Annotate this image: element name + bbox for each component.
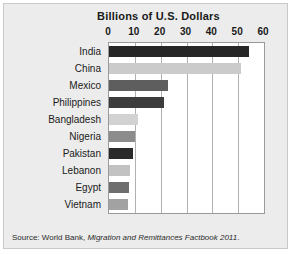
- category-label-vietnam: Vietnam: [64, 199, 101, 210]
- x-tick-30: 30: [180, 26, 191, 37]
- x-tick-10: 10: [128, 26, 139, 37]
- bar-china: [109, 63, 241, 74]
- x-tick-20: 20: [154, 26, 165, 37]
- chart-figure: Billions of U.S. Dollars 0102030405060 I…: [3, 3, 288, 249]
- bar-series: [109, 43, 264, 213]
- category-label-philippines: Philippines: [53, 97, 101, 108]
- category-label-india: India: [79, 46, 101, 57]
- bar-india: [109, 46, 249, 57]
- bar-vietnam: [109, 199, 128, 210]
- source-note-prefix: Source: World Bank,: [12, 233, 87, 242]
- source-note: Source: World Bank, Migration and Remitt…: [12, 233, 279, 242]
- category-label-bangladesh: Bangladesh: [48, 114, 101, 125]
- x-tick-40: 40: [206, 26, 217, 37]
- source-note-title: Migration and Remittances Factbook 2011: [87, 233, 237, 242]
- bar-philippines: [109, 97, 164, 108]
- x-tick-0: 0: [105, 26, 111, 37]
- x-tick-50: 50: [232, 26, 243, 37]
- category-label-lebanon: Lebanon: [62, 165, 101, 176]
- category-label-egypt: Egypt: [75, 182, 101, 193]
- bar-nigeria: [109, 131, 135, 142]
- bar-pakistan: [109, 148, 133, 159]
- bar-bangladesh: [109, 114, 138, 125]
- plot-area: [108, 42, 265, 214]
- category-label-china: China: [75, 63, 101, 74]
- category-label-pakistan: Pakistan: [63, 148, 101, 159]
- chart-title: Billions of U.S. Dollars: [4, 10, 289, 22]
- bar-egypt: [109, 182, 129, 193]
- x-axis-tick-labels: 0102030405060: [4, 26, 289, 40]
- category-axis-labels: IndiaChinaMexicoPhilippinesBangladeshNig…: [4, 42, 105, 214]
- source-note-suffix: .: [237, 233, 239, 242]
- category-label-mexico: Mexico: [69, 80, 101, 91]
- x-tick-60: 60: [257, 26, 268, 37]
- bar-mexico: [109, 80, 168, 91]
- category-label-nigeria: Nigeria: [69, 131, 101, 142]
- bar-lebanon: [109, 165, 130, 176]
